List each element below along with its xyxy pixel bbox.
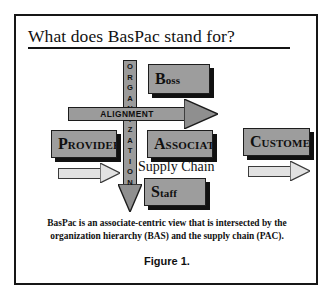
box-boss-cap: B (155, 70, 166, 87)
alignment-arrow-head (184, 99, 218, 129)
title-underline-rule (28, 47, 290, 49)
organization-axis-letter: G (118, 83, 142, 94)
box-customer-label: CUSTOMER (244, 134, 310, 150)
organization-axis-letter: T (118, 146, 142, 157)
flow-arrow-associate-to-customer (248, 161, 310, 181)
page-title: What does BasPac stand for? (28, 26, 290, 46)
flow-arrow-head (290, 161, 310, 181)
flow-arrow-shaft (248, 166, 292, 177)
flow-arrow-shaft (58, 168, 102, 179)
box-boss: Boss (148, 64, 210, 94)
organization-arrow-head (118, 184, 142, 212)
title-block: What does BasPac stand for? (28, 26, 290, 49)
organization-axis-letter: N (118, 178, 142, 189)
caption-line-1: BasPac is an associate-centric view that… (28, 217, 306, 230)
box-boss-rest: oss (166, 74, 181, 86)
box-provider: PROVIDER (51, 130, 117, 158)
alignment-axis-label: ALIGNMENT (68, 108, 186, 121)
box-staff: Staff (144, 178, 206, 206)
box-boss-label: Boss (149, 71, 180, 87)
figure-page: What does BasPac stand for? ORGANIZATION… (0, 0, 335, 299)
box-customer-cap: C (250, 133, 262, 150)
caption-line-2: organization hierarchy (BAS) and the sup… (28, 230, 306, 243)
box-associate-rest: SSOCIATE (166, 139, 213, 151)
box-associate-label: ASSOCIATE (148, 136, 213, 152)
box-provider-cap: P (58, 135, 68, 152)
figure-caption: BasPac is an associate-centric view that… (28, 217, 306, 243)
box-associate-cap: A (154, 135, 166, 152)
box-customer: CUSTOMER (243, 128, 310, 156)
alignment-axis-arrow: ALIGNMENT (68, 99, 218, 129)
organization-axis-letter: O (118, 62, 142, 73)
organization-axis-letter: R (118, 73, 142, 84)
box-provider-rest: ROVIDER (68, 139, 117, 151)
supply-chain-label: Supply Chain (138, 159, 215, 175)
box-associate: ASSOCIATE (147, 130, 213, 158)
flow-arrow-head (100, 163, 120, 183)
box-staff-cap: S (151, 183, 160, 200)
box-staff-label: Staff (145, 184, 177, 200)
box-customer-rest: USTOMER (262, 137, 310, 149)
figure-number-label: Figure 1. (28, 255, 306, 267)
flow-arrow-provider-to-associate (58, 163, 120, 183)
box-staff-rest: taff (160, 187, 177, 199)
organization-axis-letter: A (118, 136, 142, 147)
box-provider-label: PROVIDER (52, 136, 117, 152)
organization-axis-arrow: ORGANIZATION (118, 60, 142, 212)
